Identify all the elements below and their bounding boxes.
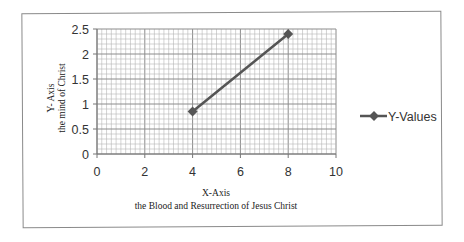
x-tick-label: 4 — [189, 165, 196, 179]
y-tick-label: 1.5 — [72, 73, 89, 87]
y-axis-title-line1: Y- Axis — [46, 83, 56, 112]
legend-label: Y-Values — [388, 110, 437, 124]
x-axis-title-line1: X-Axis — [202, 188, 230, 198]
legend-diamond-marker-icon — [369, 111, 379, 121]
x-axis-title-line2: the Blood and Resurrection of Jesus Chri… — [135, 201, 298, 211]
y-tick-label: 1 — [82, 98, 89, 112]
legend: Y-Values — [360, 110, 437, 124]
chart-svg: 00.511.522.50246810 Y- Axis the mind of … — [0, 0, 464, 242]
y-tick-label: 2 — [82, 48, 89, 62]
y-tick-label: 2.5 — [72, 23, 89, 37]
x-tick-label: 8 — [285, 165, 292, 179]
y-axis-title-line2: the mind of Christ — [57, 63, 67, 133]
x-tick-label: 2 — [141, 165, 148, 179]
y-tick-label: 0.5 — [72, 123, 89, 137]
y-tick-label: 0 — [82, 148, 89, 162]
x-tick-label: 6 — [237, 165, 244, 179]
x-tick-label: 10 — [329, 165, 343, 179]
x-tick-label: 0 — [94, 165, 101, 179]
